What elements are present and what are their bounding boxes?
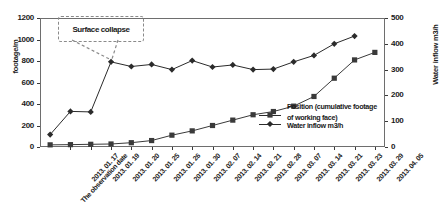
data-point-inflow — [267, 121, 273, 127]
surface-collapse-label: Surface collapse — [72, 25, 129, 34]
y-tickmark-right — [385, 70, 388, 71]
y-axis-right-title: Water inflow m3/h — [431, 15, 440, 95]
x-tickmark — [172, 147, 173, 150]
y-tickmark-left — [37, 147, 40, 148]
x-tickmark — [111, 147, 112, 150]
y-tick-right-0: 0 — [391, 142, 417, 151]
y-tick-left-800: 800 — [8, 56, 34, 65]
x-tickmark — [91, 147, 92, 150]
y-tick-left-1000: 1000 — [8, 35, 34, 44]
x-tickmark — [233, 147, 234, 150]
y-tick-right-300: 300 — [391, 65, 417, 74]
legend-label-series1-line1: Position (cumulative footage — [287, 102, 377, 111]
y-tick-left-200: 200 — [8, 121, 34, 130]
x-tickmark — [152, 147, 153, 150]
x-tickmark — [334, 147, 335, 150]
chart-legend: Position (cumulative footage of working … — [259, 101, 387, 135]
x-tickmark — [294, 147, 295, 150]
x-tickmark — [375, 147, 376, 150]
y-tick-left-1200: 1200 — [8, 13, 34, 22]
x-tickmark — [192, 147, 193, 150]
y-tickmark-right — [385, 18, 388, 19]
x-tickmark — [213, 147, 214, 150]
y-tickmark-right — [385, 44, 388, 45]
legend-marker-series2 — [265, 119, 275, 129]
x-tickmark — [273, 147, 274, 150]
y-tickmark-right — [385, 95, 388, 96]
x-tickmark — [355, 147, 356, 150]
x-tickmark — [131, 147, 132, 150]
x-axis-title: The observation date — [80, 152, 129, 204]
y-tick-right-100: 100 — [391, 116, 417, 125]
y-tick-right-400: 400 — [391, 39, 417, 48]
surface-collapse-annotation: Surface collapse — [58, 16, 144, 42]
y-tick-right-500: 500 — [391, 13, 417, 22]
x-tickmark — [253, 147, 254, 150]
x-tickmark — [70, 147, 71, 150]
legend-label-series2: Water inflow m3/h — [287, 121, 343, 130]
data-point-position — [267, 112, 272, 117]
y-tick-left-600: 600 — [8, 78, 34, 87]
chart-container: footage/m Water inflow m3/h 020040060080… — [0, 0, 445, 218]
y-tick-left-400: 400 — [8, 99, 34, 108]
y-tick-left-0: 0 — [8, 142, 34, 151]
y-tick-right-200: 200 — [391, 90, 417, 99]
y-tickmark-right — [385, 147, 388, 148]
x-tickmark — [314, 147, 315, 150]
